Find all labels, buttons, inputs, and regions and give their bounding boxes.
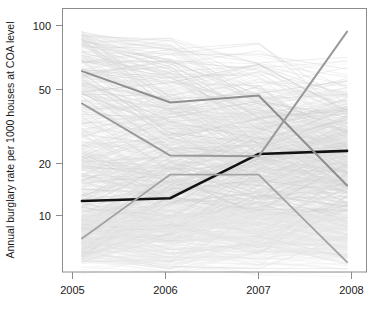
x-tick-label-2007: 2007 <box>246 284 270 296</box>
x-tick-label-2008: 2008 <box>339 284 363 296</box>
y-tick-label-10: 10 <box>39 210 51 222</box>
x-tick-label-2005: 2005 <box>60 284 84 296</box>
chart-container: 100 50 20 10 2005 2006 2007 2008 Annual … <box>0 0 376 311</box>
y-tick-label-50: 50 <box>39 84 51 96</box>
y-tick-label-20: 20 <box>39 158 51 170</box>
y-axis-title: Annual burglary rate per 1000 houses at … <box>4 22 16 259</box>
burglary-rate-spaghetti-chart: 100 50 20 10 2005 2006 2007 2008 Annual … <box>0 0 376 311</box>
y-tick-label-100: 100 <box>33 20 51 32</box>
x-tick-label-2006: 2006 <box>153 284 177 296</box>
